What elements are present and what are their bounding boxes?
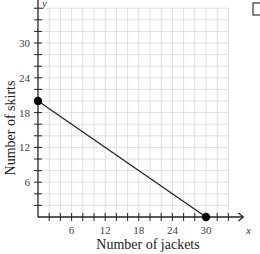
y-tick-label: 6 xyxy=(25,176,31,188)
ticks: 612182430612182430 xyxy=(19,8,228,236)
axes xyxy=(38,0,243,221)
grid xyxy=(38,8,228,217)
y-axis-variable: y xyxy=(41,0,47,9)
y-tick-label: 24 xyxy=(19,72,31,84)
x-tick-label: 18 xyxy=(133,224,145,236)
x-tick-label: 24 xyxy=(167,224,179,236)
chart: 612182430612182430 x y Number of jackets… xyxy=(0,0,260,254)
x-tick-label: 6 xyxy=(69,224,75,236)
x-tick-label: 30 xyxy=(201,224,213,236)
x-axis-title: Number of jackets xyxy=(96,237,199,252)
y-tick-label: 30 xyxy=(19,37,31,49)
data-point xyxy=(34,97,42,105)
y-tick-label: 18 xyxy=(19,107,31,119)
x-axis-variable: x xyxy=(245,224,251,236)
x-tick-label: 12 xyxy=(100,224,111,236)
y-axis-title: Number of skirts xyxy=(3,81,18,176)
data-point xyxy=(202,213,210,221)
checkbox[interactable] xyxy=(253,3,260,15)
y-tick-label: 12 xyxy=(19,141,30,153)
